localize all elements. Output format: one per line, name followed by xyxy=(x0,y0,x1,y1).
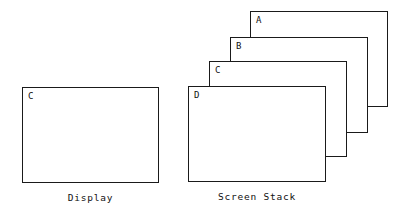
display-screen-label: C xyxy=(28,91,33,102)
stack-screen-a-label: A xyxy=(256,15,261,26)
display-screen-rect[interactable]: C xyxy=(22,87,159,183)
display-caption: Display xyxy=(22,192,159,204)
stack-screen-b-label: B xyxy=(236,41,241,52)
screen-stack-caption: Screen Stack xyxy=(188,191,326,203)
stack-screen-d-label: D xyxy=(194,90,199,101)
diagram-canvas: C Display A B C D Screen Stack xyxy=(0,0,407,212)
stack-screen-d-rect[interactable]: D xyxy=(188,86,326,182)
stack-screen-c-label: C xyxy=(215,65,220,76)
